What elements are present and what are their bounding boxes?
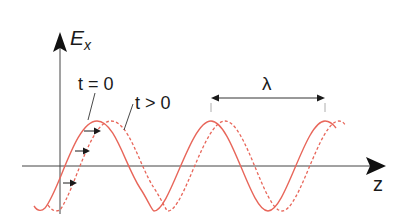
ex-axis-label: Ex — [70, 26, 92, 53]
wavelength-arrowhead-left — [211, 95, 219, 102]
shift-arrowhead-top — [94, 128, 101, 135]
shift-arrowhead-middle — [83, 148, 90, 155]
shift-arrowhead-bottom — [70, 180, 77, 187]
wavelength-arrowhead-right — [317, 95, 325, 102]
label-t-zero: t = 0 — [78, 74, 114, 94]
leader-t-zero — [88, 93, 95, 120]
wavelength-label: λ — [262, 73, 272, 94]
z-axis-label: z — [373, 173, 383, 195]
label-t-positive: t > 0 — [135, 93, 171, 113]
leader-t-positive — [124, 104, 133, 130]
wave-diagram: Ex z t = 0 t > 0 λ — [0, 0, 405, 214]
